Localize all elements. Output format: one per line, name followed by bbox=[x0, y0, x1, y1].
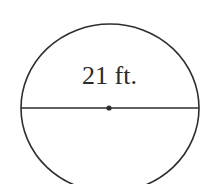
circle-outline bbox=[21, 24, 199, 184]
circle-diagram bbox=[0, 0, 209, 184]
diameter-label: 21 ft. bbox=[0, 62, 209, 90]
center-point bbox=[106, 105, 111, 110]
